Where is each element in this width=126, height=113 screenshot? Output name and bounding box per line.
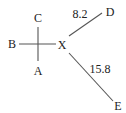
- edge-label-x-e: 15.8: [90, 62, 111, 76]
- edge-x-e: [69, 53, 113, 101]
- node-label-b: B: [8, 37, 16, 51]
- node-label-x: X: [58, 38, 67, 52]
- edge-label-x-d: 8.2: [73, 7, 88, 21]
- node-label-a: A: [34, 64, 43, 78]
- node-label-e: E: [114, 99, 121, 113]
- diagram-canvas: C B A X D E 8.2 15.8: [0, 0, 126, 113]
- node-label-c: C: [34, 11, 42, 25]
- node-label-d: D: [106, 5, 115, 19]
